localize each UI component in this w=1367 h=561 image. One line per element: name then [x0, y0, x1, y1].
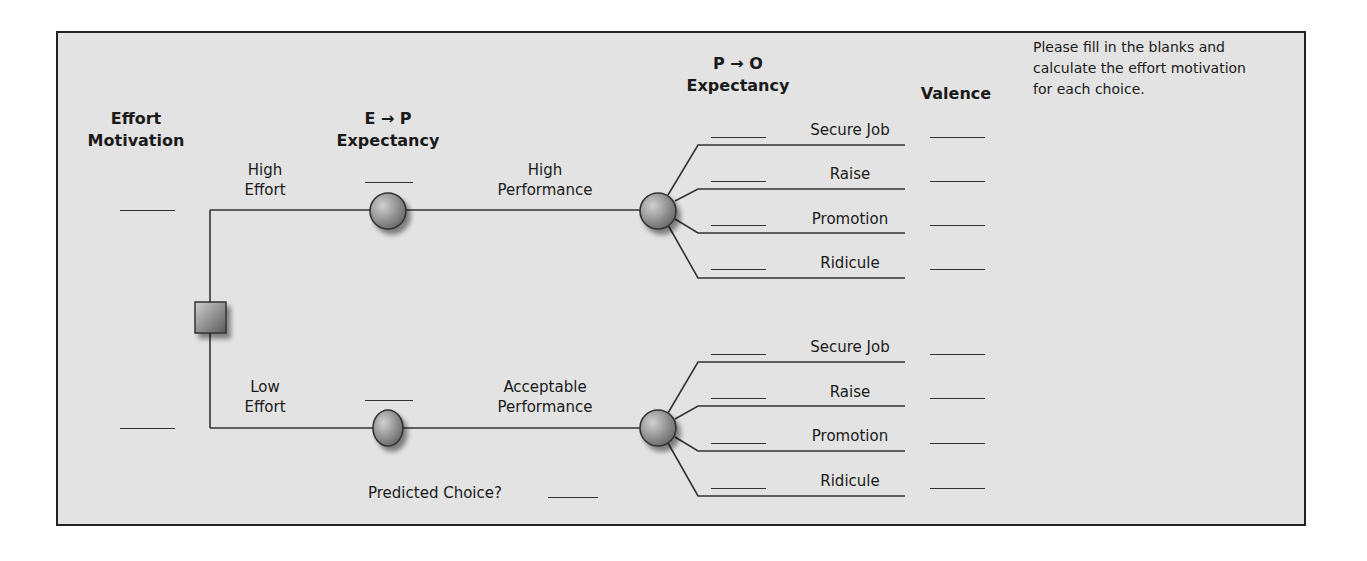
- predicted-choice-blank[interactable]: [548, 497, 598, 498]
- chance-node-icon: [640, 410, 676, 446]
- ep-expectancy-high-blank[interactable]: [365, 182, 413, 183]
- chance-node-icon: [373, 410, 403, 446]
- high-performance-label: High Performance: [470, 160, 620, 200]
- valence-blank[interactable]: [930, 354, 985, 355]
- header-effort-motivation: Effort Motivation: [86, 108, 186, 152]
- valence-blank[interactable]: [930, 443, 985, 444]
- chance-node-icon: [370, 193, 406, 229]
- header-valence: Valence: [906, 83, 1006, 105]
- high-effort-label: High Effort: [230, 160, 300, 200]
- po-expectancy-blank[interactable]: [711, 137, 766, 138]
- po-expectancy-blank[interactable]: [711, 181, 766, 182]
- valence-blank[interactable]: [930, 225, 985, 226]
- chance-node-icon: [640, 193, 676, 229]
- effort-motivation-high-blank[interactable]: [120, 210, 175, 211]
- outcome-label: Secure Job: [790, 120, 910, 140]
- valence-blank[interactable]: [930, 488, 985, 489]
- po-expectancy-blank[interactable]: [711, 488, 766, 489]
- valence-blank[interactable]: [930, 181, 985, 182]
- outcome-label: Promotion: [790, 209, 910, 229]
- instructions-text: Please fill in the blanks and calculate …: [1033, 37, 1263, 100]
- outcome-label: Promotion: [790, 426, 910, 446]
- po-expectancy-blank[interactable]: [711, 443, 766, 444]
- header-ep-expectancy: E → P Expectancy: [328, 108, 448, 152]
- outcome-label: Raise: [790, 382, 910, 402]
- valence-blank[interactable]: [930, 137, 985, 138]
- outcome-label: Ridicule: [790, 471, 910, 491]
- po-expectancy-blank[interactable]: [711, 398, 766, 399]
- valence-blank[interactable]: [930, 398, 985, 399]
- acceptable-performance-label: Acceptable Performance: [470, 377, 620, 417]
- outcome-label: Ridicule: [790, 253, 910, 273]
- po-expectancy-blank[interactable]: [711, 269, 766, 270]
- header-po-expectancy: P → O Expectancy: [678, 53, 798, 97]
- outcome-label: Secure Job: [790, 337, 910, 357]
- predicted-choice-label: Predicted Choice?: [368, 483, 502, 503]
- valence-blank[interactable]: [930, 269, 985, 270]
- po-expectancy-blank[interactable]: [711, 354, 766, 355]
- ep-expectancy-low-blank[interactable]: [365, 400, 413, 401]
- decision-node-icon: [195, 302, 226, 333]
- po-expectancy-blank[interactable]: [711, 225, 766, 226]
- outcome-label: Raise: [790, 164, 910, 184]
- low-effort-label: Low Effort: [230, 377, 300, 417]
- effort-motivation-low-blank[interactable]: [120, 428, 175, 429]
